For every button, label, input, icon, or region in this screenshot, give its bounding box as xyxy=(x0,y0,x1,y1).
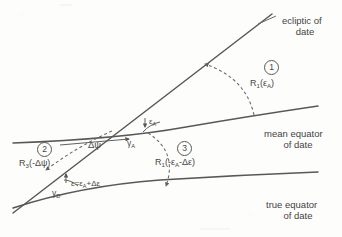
mean-equator-label-line1: mean equator xyxy=(264,128,323,139)
epsA-sub: A xyxy=(153,121,157,127)
op1-index: 1 xyxy=(257,82,260,89)
op3-close: -Δε) xyxy=(179,157,195,167)
mean-equator-of-date-label: mean equator of date xyxy=(264,129,332,151)
operation-1-expression: R1(εA) xyxy=(250,78,274,88)
operation-3-expression: R1(-εA-Δε) xyxy=(155,157,195,167)
true-equator-label-line1: true equator xyxy=(266,199,317,210)
op2-index: 3 xyxy=(26,162,29,169)
operation-2-arrow xyxy=(46,131,112,170)
true-equator-label-line2: of date xyxy=(266,211,330,222)
op2-close: ) xyxy=(47,158,50,168)
op2-R: R xyxy=(19,158,26,168)
ecliptic-label-line1: ecliptic of xyxy=(282,15,322,26)
ecliptic-label-line2: date xyxy=(282,27,328,38)
gamma-D-label: γD xyxy=(52,189,60,199)
op2-open: (-Δψ xyxy=(29,158,47,168)
diagram-canvas: ecliptic of date mean equator of date tr… xyxy=(0,0,342,237)
op3-arg-index: A xyxy=(175,161,179,168)
operation-3-badge: 3 xyxy=(177,141,192,156)
eps-total-sub: A xyxy=(83,183,87,189)
op1-close: ) xyxy=(271,78,274,88)
operation-1-badge: 1 xyxy=(264,60,279,75)
eps-total-suffix: +Δε xyxy=(86,179,100,188)
gammaA-sub: A xyxy=(131,143,135,149)
mean-equator-label-line2: of date xyxy=(264,140,332,151)
eps-total-prefix: ε=ε xyxy=(71,179,83,188)
operation-2-expression: R3(-Δψ) xyxy=(19,158,50,168)
operation-1-arrow xyxy=(205,64,254,115)
epsilon-A-label: εA xyxy=(149,117,156,126)
op1-open: (ε xyxy=(260,78,267,88)
op3-R: R xyxy=(155,157,162,167)
epsilon-total-label: ε=εA+Δε xyxy=(71,179,100,188)
op3-index: 1 xyxy=(162,161,165,168)
op1-R: R xyxy=(250,78,257,88)
op1-arg-index: A xyxy=(267,82,271,89)
gamma-A-label: γA xyxy=(127,139,135,149)
op3-open: (-ε xyxy=(165,157,175,167)
operation-2-badge: 2 xyxy=(37,142,52,157)
ecliptic-of-date-line xyxy=(13,14,272,213)
delta-psi-label: Δψ xyxy=(88,140,101,151)
true-equator-of-date-label: true equator of date xyxy=(266,200,330,222)
gammaD-sub: D xyxy=(56,193,60,199)
ecliptic-of-date-label: ecliptic of date xyxy=(282,16,328,38)
